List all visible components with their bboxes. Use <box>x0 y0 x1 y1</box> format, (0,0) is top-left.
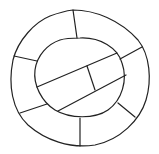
diagram-svg <box>0 0 159 154</box>
inner-circle <box>35 38 125 117</box>
ring-divider-2 <box>20 104 47 113</box>
ring-dividers <box>14 10 142 146</box>
ring-divider-0 <box>73 10 77 38</box>
ring-divider-5 <box>120 47 142 59</box>
band-line-0 <box>37 53 117 87</box>
band-line-2 <box>87 66 95 90</box>
inner-band <box>37 53 126 111</box>
ring-divider-4 <box>118 103 135 117</box>
ring-diagram <box>0 0 159 154</box>
ring-divider-1 <box>14 56 37 61</box>
